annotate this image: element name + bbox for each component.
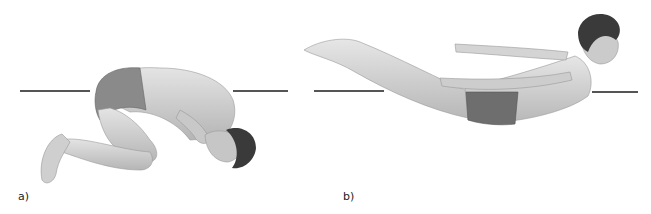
figure-panel-b: b) xyxy=(300,0,651,214)
extended-posture-illustration xyxy=(300,0,651,214)
panel-label-b: b) xyxy=(343,190,354,203)
figure-panel-a: a) xyxy=(0,0,300,214)
flexed-posture-illustration xyxy=(0,0,300,214)
panel-label-a: a) xyxy=(18,190,29,203)
